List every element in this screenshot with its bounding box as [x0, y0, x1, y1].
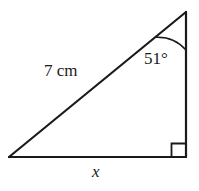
hypotenuse-line: [9, 12, 186, 157]
triangle-figure: 7 cm 51° x: [0, 0, 199, 191]
right-angle-marker: [172, 144, 186, 158]
hypotenuse-label: 7 cm: [44, 62, 78, 79]
base-label: x: [92, 163, 100, 180]
angle-label: 51°: [144, 50, 168, 67]
